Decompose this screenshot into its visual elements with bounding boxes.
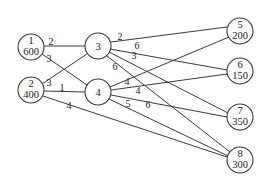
node-8-id: 8 — [237, 148, 242, 159]
edge-label-2-8: 4 — [67, 100, 72, 111]
edge-label-3-7: 3 — [132, 50, 137, 61]
node-8: 8 300 — [227, 147, 253, 173]
node-6-id: 6 — [237, 59, 242, 70]
edge-label-3-8: 6 — [113, 61, 118, 72]
node-5: 5 200 — [227, 18, 253, 44]
edge-3-5 — [111, 27, 227, 42]
node-8-value: 300 — [232, 159, 248, 170]
node-7-value: 350 — [232, 116, 248, 127]
node-4-id: 4 — [95, 87, 101, 98]
node-2-value: 400 — [23, 89, 39, 100]
edge-label-4-7: 6 — [146, 99, 151, 110]
node-5-value: 200 — [232, 30, 248, 41]
node-3: 3 — [85, 33, 111, 59]
edge-label-3-5: 2 — [118, 31, 123, 42]
edge-label-4-8: 5 — [126, 98, 131, 109]
node-2: 2 400 — [18, 77, 44, 103]
edge-3-6 — [110, 49, 227, 70]
node-3-id: 3 — [95, 41, 100, 52]
edge-label-1-3: 2 — [49, 36, 54, 47]
edge-label-4-5: 4 — [125, 76, 130, 87]
network-diagram: 2 3 3 1 4 2 6 3 6 4 4 6 5 1 600 2 400 3 … — [0, 0, 263, 178]
node-6-value: 150 — [232, 70, 248, 81]
node-1-value: 600 — [23, 46, 39, 57]
node-7: 7 350 — [227, 104, 253, 130]
node-5-id: 5 — [237, 19, 242, 30]
node-4: 4 — [85, 79, 111, 105]
edge-label-2-4: 1 — [60, 82, 65, 93]
edge-label-4-6: 4 — [136, 85, 141, 96]
node-2-id: 2 — [28, 78, 33, 89]
node-1-id: 1 — [28, 35, 33, 46]
node-7-id: 7 — [237, 105, 242, 116]
edge-label-2-3: 3 — [47, 77, 52, 88]
edge-label-1-4: 3 — [47, 53, 52, 64]
node-6: 6 150 — [227, 58, 253, 84]
node-1: 1 600 — [18, 34, 44, 60]
edge-2-4 — [44, 91, 85, 92]
